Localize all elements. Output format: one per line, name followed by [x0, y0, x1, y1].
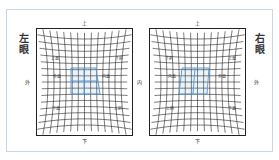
left-muscle-upper-left: 上直 — [51, 56, 59, 61]
right-muscle-mid-left: 内直 — [168, 74, 176, 79]
center-inner-label: 内 — [137, 79, 142, 85]
right-top-label: 上 — [195, 20, 200, 26]
left-muscle-mid-left: 外直 — [53, 74, 61, 79]
right-muscle-upper-left: 下斜 — [165, 56, 173, 61]
right-muscle-upper-right: 上直 — [228, 56, 236, 61]
right-bottom-label: 下 — [195, 138, 200, 144]
distorted-grid-lines — [149, 28, 246, 136]
left-outer-label: 外 — [25, 79, 30, 85]
left-eye-title: 左眼 — [18, 33, 29, 55]
left-muscle-lower-left: 下直 — [52, 106, 60, 111]
right-eye-grid — [149, 28, 246, 136]
right-muscle-mid-right: 外直 — [218, 74, 226, 79]
left-bottom-label: 下 — [82, 138, 87, 144]
left-muscle-lower-right: 上斜 — [114, 106, 122, 111]
right-muscle-lower-right: 下直 — [228, 106, 236, 111]
distorted-grid-lines — [36, 28, 133, 136]
left-muscle-mid-right: 内直 — [102, 74, 110, 79]
right-muscle-lower-left: 上斜 — [166, 106, 174, 111]
left-top-label: 上 — [82, 20, 87, 26]
right-outer-label: 外 — [254, 79, 259, 85]
left-muscle-upper-right: 下斜 — [115, 56, 123, 61]
left-eye-grid — [36, 28, 133, 136]
right-eye-title: 右眼 — [254, 33, 265, 55]
